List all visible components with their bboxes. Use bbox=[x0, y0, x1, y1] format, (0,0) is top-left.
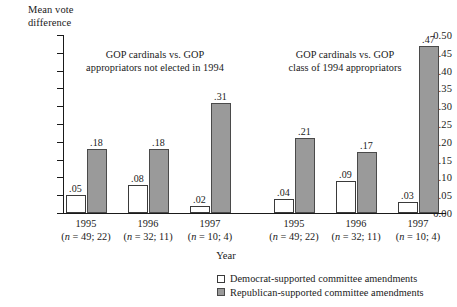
legend-item-dem: Democrat-supported committee amendments bbox=[217, 272, 424, 286]
bar-dem-1996-group1 bbox=[128, 185, 148, 213]
bar-value-label: .02 bbox=[188, 194, 212, 205]
y-axis-tick bbox=[57, 213, 63, 214]
bar-dem-1996-group2 bbox=[336, 181, 356, 213]
legend-item-rep: Republican-supported committee amendment… bbox=[217, 286, 424, 300]
bar-rep-1996-group1 bbox=[149, 149, 169, 213]
x-axis-label-year: 1997 bbox=[373, 217, 457, 230]
bar-dem-1997-group1 bbox=[190, 206, 210, 213]
bar-dem-1995-group1 bbox=[66, 195, 86, 213]
legend: Democrat-supported committee amendmentsR… bbox=[217, 272, 424, 299]
bar-value-label: .18 bbox=[85, 137, 109, 148]
bar-rep-1995-group1 bbox=[87, 149, 107, 213]
bar-value-label: .09 bbox=[334, 169, 358, 180]
bars-container: .05.18.08.18.02.31.04.21.09.17.03.47 bbox=[63, 35, 446, 213]
bar-rep-1997-group2 bbox=[419, 46, 439, 213]
x-axis-label-year: 1997 bbox=[165, 217, 255, 230]
legend-swatch-dem bbox=[217, 275, 225, 283]
x-axis-label-n: (n = 10; 4) bbox=[373, 230, 457, 243]
x-axis-title: Year bbox=[196, 250, 256, 261]
legend-label: Democrat-supported committee amendments bbox=[230, 272, 417, 286]
legend-swatch-rep bbox=[217, 288, 225, 296]
bar-value-label: .04 bbox=[272, 187, 296, 198]
bar-rep-1995-group2 bbox=[295, 138, 315, 213]
x-axis-label: 1997(n = 10; 4) bbox=[373, 217, 457, 243]
bar-value-label: .08 bbox=[126, 173, 150, 184]
x-axis-label: 1997(n = 10; 4) bbox=[165, 217, 255, 243]
bar-value-label: .17 bbox=[355, 140, 379, 151]
bar-value-label: .18 bbox=[147, 137, 171, 148]
bar-value-label: .05 bbox=[64, 183, 88, 194]
bar-dem-1995-group2 bbox=[274, 199, 294, 213]
bar-value-label: .31 bbox=[209, 91, 233, 102]
bar-rep-1996-group2 bbox=[357, 152, 377, 213]
bar-value-label: .21 bbox=[293, 126, 317, 137]
bar-rep-1997-group1 bbox=[211, 103, 231, 213]
bar-value-label: .03 bbox=[396, 190, 420, 201]
x-axis-label-n: (n = 10; 4) bbox=[165, 230, 255, 243]
x-axis-line bbox=[63, 213, 446, 214]
bar-dem-1997-group2 bbox=[398, 202, 418, 213]
bar-value-label: .47 bbox=[417, 34, 441, 45]
y-axis-title: Mean vote difference bbox=[28, 4, 74, 29]
legend-label: Republican-supported committee amendment… bbox=[230, 286, 424, 300]
